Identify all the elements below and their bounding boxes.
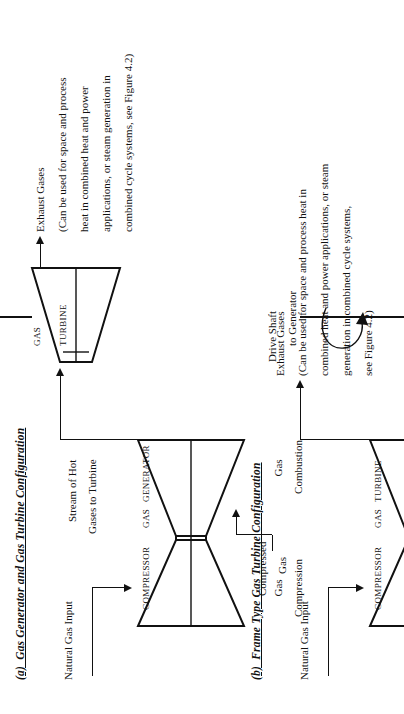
panel-b-exhaust-arrowhead xyxy=(296,380,304,388)
panel-b-body-label-top: GAS xyxy=(373,509,383,528)
panel-b-inlet-leader xyxy=(328,588,329,676)
panel-b-inlet-arrowhead xyxy=(356,584,364,592)
panel-b-exhaust-note-1: combined heat and power applications, or… xyxy=(318,164,331,376)
panel-b-exhaust-vertical xyxy=(300,439,368,440)
panel-b-caption: (b) Frame Type Gas Turbine Configuration xyxy=(250,462,264,680)
panel-b-inlet-label: Natural Gas Input xyxy=(298,601,311,680)
panel-b-exhaust-note-3: see Figure 4.2) xyxy=(362,310,375,376)
panel-b-inlet-leader-v xyxy=(328,587,358,588)
figure-page: (a) Gas Generator and Gas Turbine Config… xyxy=(0,0,404,714)
panel-b-exhaust-horizontal xyxy=(300,386,301,440)
panel-b-exhaust-riser xyxy=(368,439,394,440)
panel-b-exhaust-title: Exhaust Gases xyxy=(274,312,287,376)
panel-b: (b) Frame Type Gas Turbine Configuration… xyxy=(0,0,404,714)
panel-b-compressor-label: COMPRESSOR xyxy=(373,546,383,610)
panel-b-exhaust-note-2: generation in combined cycle systems, xyxy=(340,206,353,376)
panel-b-body-label-bottom: TURBINE xyxy=(373,460,383,502)
figure-canvas: (a) Gas Generator and Gas Turbine Config… xyxy=(0,0,404,714)
panel-b-exhaust-note-0: (Can be used for space and process heat … xyxy=(296,189,309,376)
